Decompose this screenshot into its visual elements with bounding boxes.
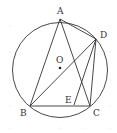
center-point-O (59, 67, 62, 70)
label-O: O (56, 55, 63, 65)
label-B: B (20, 108, 27, 118)
label-D: D (100, 30, 107, 40)
label-A: A (56, 6, 64, 16)
segment-AC (60, 19, 90, 106)
label-C: C (93, 108, 100, 118)
geometry-diagram: A B C D E O (0, 0, 117, 133)
label-E: E (65, 95, 72, 105)
